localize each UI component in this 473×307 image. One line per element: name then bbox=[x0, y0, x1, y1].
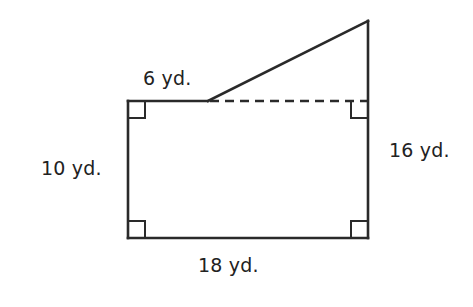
label-top-segment: 6 yd. bbox=[143, 67, 191, 89]
right-angle-marker-bottom-right bbox=[351, 221, 368, 238]
right-angle-marker-top-left bbox=[128, 101, 145, 118]
label-right-side: 16 yd. bbox=[389, 139, 450, 161]
label-bottom-side: 18 yd. bbox=[198, 254, 259, 276]
right-angle-marker-top-right bbox=[351, 101, 368, 118]
triangle-hypotenuse bbox=[208, 21, 368, 101]
right-angle-marker-bottom-left bbox=[128, 221, 145, 238]
label-left-side: 10 yd. bbox=[41, 157, 102, 179]
